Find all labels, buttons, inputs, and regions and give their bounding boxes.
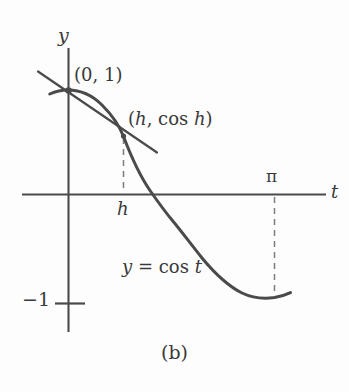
point-marker-h (121, 133, 126, 138)
coord-zero: 0 (81, 64, 92, 85)
cosine-secant-plot (0, 0, 349, 392)
equation-cos: cos (159, 256, 189, 277)
point-label-h: (h, cos h) (128, 110, 213, 128)
x-tick-label-h: h (117, 200, 129, 218)
figure-caption: (b) (0, 343, 349, 362)
paren-close: ) (115, 64, 122, 85)
curve-equation-label: y = cos t (122, 258, 202, 276)
y-axis-label: y (58, 26, 69, 45)
coord-comma: , (147, 108, 153, 129)
equation-t: t (195, 256, 202, 277)
t-axis-label: t (331, 183, 338, 201)
y-tick-label-minus-one: −1 (22, 290, 50, 309)
point-label-origin: (0, 1) (74, 66, 122, 84)
coord-h: h (135, 108, 147, 129)
figure-container: y t (0, 1) (h, cos h) h π −1 y = cos t (… (0, 0, 349, 392)
point-marker-origin (65, 87, 72, 94)
paren-open: ( (128, 108, 135, 129)
paren-close: ) (206, 108, 213, 129)
coord-comma: , (92, 64, 98, 85)
x-tick-label-pi: π (266, 168, 277, 185)
coord-h2: h (194, 108, 206, 129)
equation-equals: = (138, 256, 153, 277)
equation-y: y (122, 256, 132, 277)
coord-one: 1 (104, 64, 115, 85)
cos-operator: cos (158, 108, 188, 129)
paren-open: ( (74, 64, 81, 85)
